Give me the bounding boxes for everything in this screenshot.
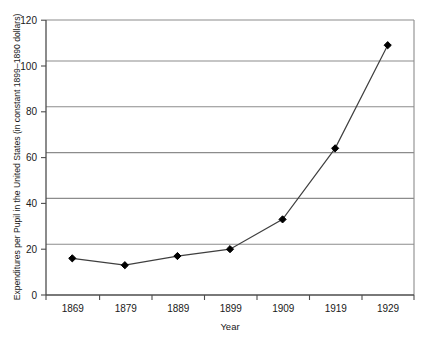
line-chart: 0 20 40 60 80 100 120 1869 1879 1889 189… bbox=[0, 0, 430, 343]
x-tick-label-1879: 1879 bbox=[115, 303, 138, 314]
y-axis-tick-labels: 0 20 40 60 80 100 120 bbox=[20, 15, 37, 301]
y-tick-label-120: 120 bbox=[20, 15, 37, 26]
y-axis-ticks bbox=[41, 20, 46, 295]
y-tick-label-0: 0 bbox=[31, 290, 37, 301]
x-axis-ticks bbox=[46, 295, 414, 300]
y-tick-label-60: 60 bbox=[26, 152, 38, 163]
x-tick-label-1919: 1919 bbox=[325, 303, 348, 314]
y-tick-label-100: 100 bbox=[20, 61, 37, 72]
x-tick-label-1869: 1869 bbox=[62, 303, 85, 314]
y-tick-label-40: 40 bbox=[26, 198, 38, 209]
y-tick-label-80: 80 bbox=[26, 106, 38, 117]
x-axis-title: Year bbox=[220, 321, 239, 332]
y-axis-title: Expenditures per Pupil in the United Sta… bbox=[12, 14, 22, 301]
y-tick-label-20: 20 bbox=[26, 244, 38, 255]
x-tick-label-1909: 1909 bbox=[272, 303, 295, 314]
x-tick-label-1929: 1929 bbox=[377, 303, 400, 314]
x-axis-tick-labels: 1869 1879 1889 1899 1909 1919 1929 bbox=[62, 303, 400, 314]
chart-canvas: 0 20 40 60 80 100 120 1869 1879 1889 189… bbox=[0, 0, 430, 343]
x-tick-label-1899: 1899 bbox=[220, 303, 243, 314]
x-tick-label-1889: 1889 bbox=[167, 303, 190, 314]
